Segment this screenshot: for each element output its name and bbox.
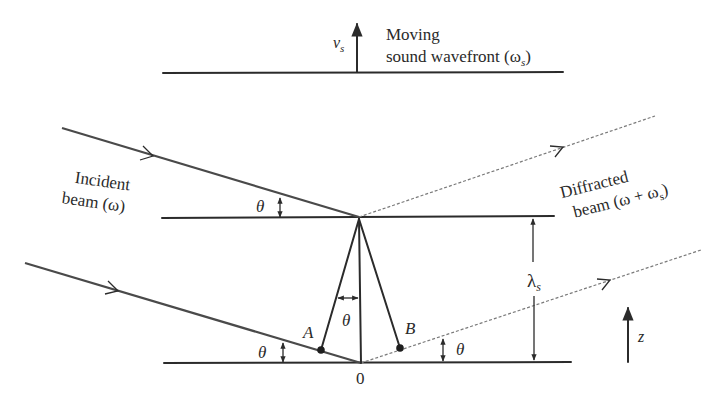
- point-A-label: A: [302, 323, 314, 342]
- z-axis: z: [628, 308, 645, 362]
- path-difference-construction: [317, 219, 404, 363]
- normal-line: [359, 219, 361, 363]
- origin-label: 0: [356, 369, 365, 388]
- wavefront-line: [163, 72, 563, 73]
- lower-wavefront-plane: [164, 362, 571, 363]
- point-B-label: B: [405, 319, 416, 338]
- theta-label-inner: θ: [342, 311, 350, 330]
- line-to-A: [321, 219, 359, 350]
- diffracted-beam-label: Diffracted beam (ω + ωs): [558, 158, 670, 225]
- wavelength-label: λs: [527, 270, 541, 294]
- lower-incident-ray: [25, 263, 361, 363]
- z-axis-label: z: [637, 328, 645, 345]
- moving-wavefront: vs Moving sound wavefront (ωs): [163, 24, 563, 73]
- wavefront-label-line2: sound wavefront (ωs): [386, 47, 531, 68]
- wavefront-label-line1: Moving: [386, 25, 440, 44]
- point-A-dot: [317, 346, 325, 354]
- point-B-dot: [396, 344, 404, 352]
- incident-beam-label: Incident beam (ω): [61, 166, 132, 216]
- theta-label-upper: θ: [256, 197, 264, 216]
- upper-diffracted-arrow-icon: [550, 146, 563, 157]
- line-to-B: [359, 219, 400, 348]
- lower-diffracted-ray: [361, 250, 701, 363]
- theta-label-lower: θ: [258, 343, 266, 362]
- theta-label-diffracted: θ: [456, 340, 464, 359]
- velocity-label: vs: [333, 34, 344, 54]
- wavelength-dimension: λs: [527, 219, 541, 360]
- bragg-diffraction-diagram: vs Moving sound wavefront (ωs) θ θ θ: [0, 0, 717, 398]
